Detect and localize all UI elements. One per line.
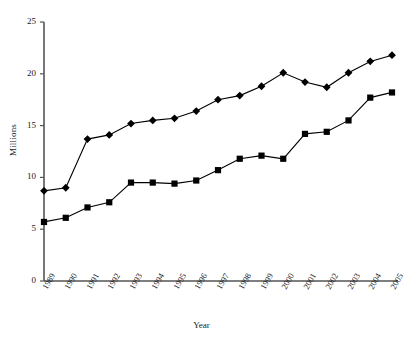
chart-series-layer bbox=[40, 51, 396, 225]
data-point-marker bbox=[280, 156, 286, 162]
data-point-marker bbox=[323, 83, 331, 91]
data-point-marker bbox=[171, 181, 177, 187]
data-point-marker bbox=[214, 96, 222, 104]
data-point-marker bbox=[171, 114, 179, 122]
data-point-marker bbox=[62, 184, 70, 192]
series-line bbox=[44, 92, 392, 222]
data-point-marker bbox=[192, 107, 200, 115]
data-point-marker bbox=[63, 215, 69, 221]
data-point-marker bbox=[389, 89, 395, 95]
y-axis-title: Millions bbox=[8, 105, 18, 175]
data-point-marker bbox=[84, 135, 92, 143]
y-tick-label: 20 bbox=[10, 68, 36, 78]
data-point-marker bbox=[345, 117, 351, 123]
data-point-marker bbox=[258, 82, 266, 90]
data-point-marker bbox=[215, 167, 221, 173]
data-point-marker bbox=[106, 199, 112, 205]
data-point-marker bbox=[236, 92, 244, 100]
y-tick-label: 25 bbox=[10, 16, 36, 26]
data-point-marker bbox=[150, 179, 156, 185]
data-point-marker bbox=[128, 179, 134, 185]
data-point-marker bbox=[388, 51, 396, 59]
data-point-marker bbox=[301, 78, 309, 86]
data-point-marker bbox=[345, 69, 353, 77]
data-point-marker bbox=[40, 187, 48, 195]
data-point-marker bbox=[367, 95, 373, 101]
data-point-marker bbox=[84, 204, 90, 210]
data-point-marker bbox=[237, 156, 243, 162]
y-tick-label: 5 bbox=[10, 223, 36, 233]
data-point-marker bbox=[258, 153, 264, 159]
chart-axes bbox=[40, 22, 398, 281]
data-point-marker bbox=[279, 69, 287, 77]
data-point-marker bbox=[41, 219, 47, 225]
data-point-marker bbox=[149, 117, 157, 125]
data-point-marker bbox=[366, 57, 374, 65]
data-point-marker bbox=[127, 120, 135, 128]
data-point-marker bbox=[193, 177, 199, 183]
data-point-marker bbox=[105, 131, 113, 139]
y-tick-label: 0 bbox=[10, 275, 36, 285]
data-point-marker bbox=[324, 129, 330, 135]
data-point-marker bbox=[302, 131, 308, 137]
x-axis-title: Year bbox=[0, 320, 403, 330]
series-2-square bbox=[41, 89, 395, 225]
